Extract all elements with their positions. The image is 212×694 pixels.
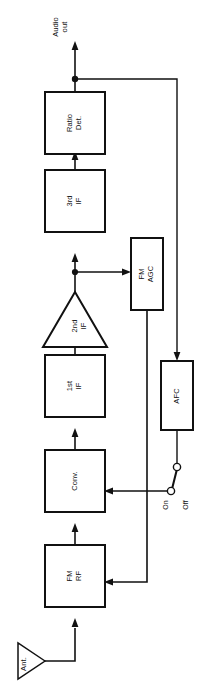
block-2nd-if <box>43 292 107 347</box>
block-afc <box>161 361 193 430</box>
block-ratio-det <box>45 92 105 154</box>
wire-antenna-to-fmrf <box>45 618 78 661</box>
afc-switch-terminal-off[interactable] <box>173 463 180 470</box>
fm-receiver-block-diagram: Ratio Det. 3rd IF 2nd IF 1st IF Conv. FM… <box>0 0 212 694</box>
wire-fmrf-to-conv <box>72 523 79 545</box>
wire-ratiodet-to-audioout <box>72 41 79 92</box>
block-fm-agc <box>131 238 163 310</box>
wire-switch-to-conv <box>104 488 167 495</box>
afc-switch-lever <box>172 469 177 489</box>
block-1st-if <box>45 355 105 417</box>
block-fm-rf <box>45 545 105 607</box>
block-conv <box>45 450 105 512</box>
block-3rd-if <box>45 170 105 232</box>
antenna-symbol <box>18 643 45 679</box>
wire-fmagc-to-fmrf <box>104 310 147 585</box>
wire-if2-to-fmagc <box>75 269 131 276</box>
wire-conv-to-if1 <box>72 428 79 450</box>
afc-switch-terminal-on[interactable] <box>167 487 174 494</box>
